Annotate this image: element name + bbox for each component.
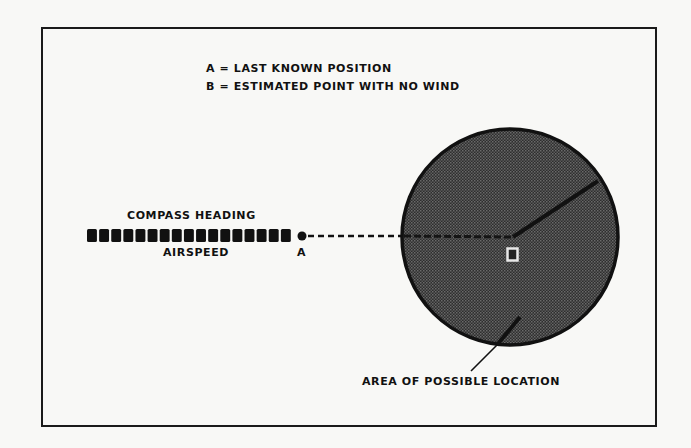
track-square [135,229,145,242]
heading-track [87,229,291,242]
track-square [257,229,267,242]
point-a-marker [298,232,307,241]
area-of-possible-location-label: AREA OF POSSIBLE LOCATION [362,376,560,387]
track-square [99,229,109,242]
legend-line-a: A = LAST KNOWN POSITION [206,63,392,74]
track-square [184,229,194,242]
track-square [208,229,218,242]
area-leader-line [471,345,497,371]
inner-track-line [404,236,513,237]
diagram-canvas: A = LAST KNOWN POSITION B = ESTIMATED PO… [0,0,691,448]
point-a-label: A [297,247,306,258]
track-square [196,229,206,242]
track-square [220,229,230,242]
track-square [245,229,255,242]
track-square [232,229,242,242]
track-square [281,229,291,242]
legend-line-b: B = ESTIMATED POINT WITH NO WIND [206,81,460,92]
track-square [269,229,279,242]
track-square [160,229,170,242]
airspeed-label: AIRSPEED [163,247,229,258]
compass-heading-label: COMPASS HEADING [127,210,256,221]
track-square [148,229,158,242]
track-square [87,229,97,242]
track-square [123,229,133,242]
track-square [172,229,182,242]
track-square [111,229,121,242]
point-b-marker [508,249,518,261]
